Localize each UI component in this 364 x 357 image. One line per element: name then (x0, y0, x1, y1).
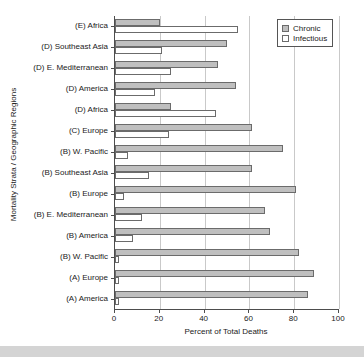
y-axis-label: (B) W. Pacific (60, 147, 108, 156)
footer-band (0, 346, 364, 357)
bar-infectious (115, 110, 216, 117)
legend-item: Chronic (282, 23, 327, 33)
x-axis-tick-label: 20 (154, 314, 163, 323)
bar-chronic (115, 19, 160, 26)
x-axis-tick (159, 309, 160, 313)
bar-chronic (115, 228, 270, 235)
x-axis-tick (338, 309, 339, 313)
bar-infectious (115, 172, 149, 179)
bar-chronic (115, 103, 171, 110)
x-axis-tick (248, 309, 249, 313)
bar-infectious (115, 26, 238, 33)
y-axis-tick (111, 194, 115, 195)
legend-item: Infectious (282, 33, 327, 43)
y-axis-label: (B) E. Mediterranean (34, 210, 108, 219)
y-axis-label: (D) America (66, 84, 108, 93)
bar-infectious (115, 277, 119, 284)
y-axis-label: (B) Southeast Asia (42, 168, 108, 177)
bar-chronic (115, 165, 252, 172)
y-axis-tick (111, 26, 115, 27)
gridline (339, 16, 340, 309)
x-axis-tick-label: 60 (244, 314, 253, 323)
gridline (294, 16, 295, 309)
y-axis-label: (A) America (66, 294, 108, 303)
bar-chronic (115, 186, 296, 193)
bar-infectious (115, 214, 142, 221)
y-axis-label: (B) Europe (69, 189, 108, 198)
y-axis-label: (A) Europe (69, 273, 108, 282)
legend: ChronicInfectious (277, 19, 333, 47)
y-axis-label: (B) W. Pacific (60, 252, 108, 261)
chart-screenshot: Mortality Strata / Geographic Regions (E… (0, 0, 364, 357)
x-axis-tick-label: 0 (112, 314, 116, 323)
y-axis-tick (111, 173, 115, 174)
x-axis-tick-label: 40 (199, 314, 208, 323)
bar-infectious (115, 193, 124, 200)
y-axis-tick (111, 47, 115, 48)
x-axis-tick (114, 309, 115, 313)
y-axis-tick (111, 215, 115, 216)
y-axis-tick (111, 89, 115, 90)
bar-chronic (115, 145, 283, 152)
bar-infectious (115, 131, 169, 138)
bar-chronic (115, 249, 299, 256)
legend-label: Chronic (293, 24, 321, 33)
y-axis-label: (E) Africa (75, 21, 108, 30)
bar-infectious (115, 47, 162, 54)
y-axis-label: (C) Europe (69, 126, 108, 135)
bar-infectious (115, 89, 155, 96)
y-axis-tick (111, 131, 115, 132)
y-axis-tick (111, 236, 115, 237)
bar-chronic (115, 291, 308, 298)
bar-chronic (115, 61, 218, 68)
bar-infectious (115, 256, 119, 263)
bar-chronic (115, 270, 314, 277)
gridline (249, 16, 250, 309)
x-axis-tick-label: 100 (331, 314, 344, 323)
y-axis-tick (111, 68, 115, 69)
legend-label: Infectious (293, 34, 327, 43)
bar-infectious (115, 235, 133, 242)
bar-chronic (115, 207, 265, 214)
x-axis-tick (293, 309, 294, 313)
y-axis-label: (B) America (66, 231, 108, 240)
bar-chronic (115, 82, 236, 89)
bar-chronic (115, 124, 252, 131)
y-axis-tick (111, 278, 115, 279)
bar-infectious (115, 152, 128, 159)
bar-chronic (115, 40, 227, 47)
x-axis-tick (204, 309, 205, 313)
y-axis-tick (111, 152, 115, 153)
y-axis-labels: (E) Africa(D) Southeast Asia(D) E. Medit… (0, 16, 108, 309)
y-axis-label: (D) E. Mediterranean (33, 63, 108, 72)
legend-swatch-infectious (282, 35, 289, 42)
y-axis-tick (111, 110, 115, 111)
y-axis-label: (D) Africa (75, 105, 108, 114)
x-axis-title: Percent of Total Deaths (114, 327, 338, 336)
y-axis-label: (D) Southeast Asia (41, 42, 108, 51)
x-axis-tick-label: 80 (289, 314, 298, 323)
bar-infectious (115, 298, 119, 305)
legend-swatch-chronic (282, 25, 289, 32)
bar-chart: Mortality Strata / Geographic Regions (E… (0, 0, 364, 346)
plot-area (114, 16, 339, 310)
y-axis-tick (111, 257, 115, 258)
bar-infectious (115, 68, 171, 75)
y-axis-tick (111, 299, 115, 300)
